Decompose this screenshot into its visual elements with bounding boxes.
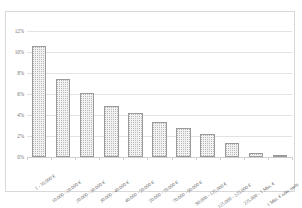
x-axis-tick-mark <box>292 157 293 160</box>
bar-slot <box>27 31 51 157</box>
y-axis-tick-label: 12% <box>15 28 24 34</box>
y-axis-tick-label: 6% <box>17 91 24 97</box>
bar <box>152 122 166 157</box>
bar-slot <box>75 31 99 157</box>
bar <box>32 46 46 157</box>
bar <box>128 113 142 157</box>
plot-area: 0%2%4%6%8%10%12% <box>27 31 292 157</box>
y-axis-tick-label: 10% <box>15 49 24 55</box>
bar-slot <box>244 31 268 157</box>
x-axis-tick-labels: 1 - 10.000 €10.000 - 20.000 €20.000 - 30… <box>27 160 292 192</box>
bar <box>176 128 190 157</box>
bar-slot <box>123 31 147 157</box>
bar <box>104 106 118 157</box>
y-axis-tick-label: 8% <box>17 70 24 76</box>
bar-slot <box>268 31 292 157</box>
bar-slot <box>99 31 123 157</box>
y-axis-tick-label: 2% <box>17 133 24 139</box>
y-axis-tick-label: 0% <box>17 154 24 160</box>
bar <box>80 93 94 157</box>
chart-frame: 0%2%4%6%8%10%12% 1 - 10.000 €10.000 - 20… <box>5 11 295 192</box>
bar-series <box>27 31 292 157</box>
bar-slot <box>147 31 171 157</box>
bar-slot <box>196 31 220 157</box>
x-axis-tick-label: 1 - 10.000 € <box>34 174 56 192</box>
bar <box>200 134 214 157</box>
bar <box>225 143 239 157</box>
bar-slot <box>51 31 75 157</box>
bar-slot <box>220 31 244 157</box>
y-axis-tick-label: 4% <box>17 112 24 118</box>
bar-slot <box>172 31 196 157</box>
bar <box>56 79 70 157</box>
